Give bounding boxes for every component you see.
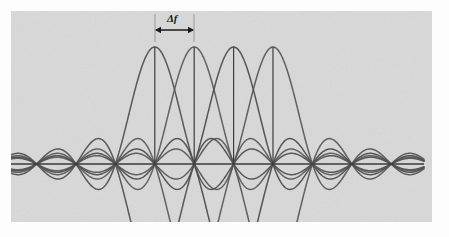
ofdm-spectrum-figure: Δf — [0, 0, 449, 237]
plot-background-texture — [11, 11, 432, 222]
spectrum-plot — [0, 0, 449, 237]
delta-f-label: Δf — [167, 13, 177, 24]
